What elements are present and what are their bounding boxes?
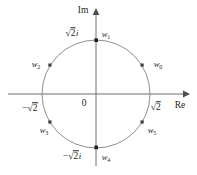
root-point-w3 — [48, 120, 51, 123]
root-point-w0 — [141, 64, 144, 67]
root-label-w3: w3 — [40, 126, 49, 135]
origin-label: 0 — [82, 99, 87, 109]
real-axis-label: Re — [175, 101, 186, 111]
tick-negative-imaginary: −√2i — [63, 152, 81, 162]
tick-positive-real: √2 — [151, 103, 161, 113]
imaginary-axis-label: Im — [78, 6, 89, 16]
root-label-w1: w1 — [102, 30, 111, 39]
root-label-w2: w2 — [32, 60, 41, 69]
root-label-w4: w4 — [102, 153, 111, 162]
complex-plane-figure: Im Re 0 √2i −√2i √2 −√2 w0 w1 w2 w3 w4 w… — [0, 0, 197, 175]
root-point-w5 — [141, 120, 144, 123]
imaginary-axis-arrow — [93, 8, 100, 15]
root-label-w5: w5 — [148, 126, 157, 135]
root-label-w0: w0 — [154, 60, 163, 69]
tick-positive-imaginary: √2i — [66, 29, 79, 39]
root-point-w2 — [48, 64, 51, 67]
diagram-canvas — [0, 0, 197, 175]
real-axis-arrow — [183, 91, 190, 98]
tick-negative-real: −√2 — [22, 104, 38, 114]
root-point-w1 — [94, 38, 98, 42]
root-point-w4 — [94, 146, 98, 150]
